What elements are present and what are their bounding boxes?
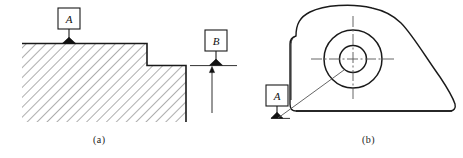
datum-a-left-triangle [63,37,76,43]
drawing-canvas: A B [0,0,463,158]
datum-b-left-triangle [210,59,223,65]
datum-a-right-letter: A [273,90,281,102]
datum-symbol-a-right[interactable]: A [266,85,290,118]
figure-b-group: A [266,5,455,118]
dimension-arrow-head [209,66,214,72]
datum-symbol-b-left[interactable]: B [205,30,227,65]
dimension-arrow-b [209,66,214,113]
datum-symbol-a-left[interactable]: A [58,8,80,43]
hatch-fill [22,44,186,122]
figure-a-group: A B [22,8,237,122]
datum-b-left-letter: B [213,35,220,47]
caption-b: (b) [362,134,375,145]
cam-body-outline [290,5,455,111]
engineering-figure: A B [0,0,463,158]
caption-a: (a) [93,134,106,145]
section-hatching [22,44,186,122]
datum-a-left-letter: A [65,13,73,25]
